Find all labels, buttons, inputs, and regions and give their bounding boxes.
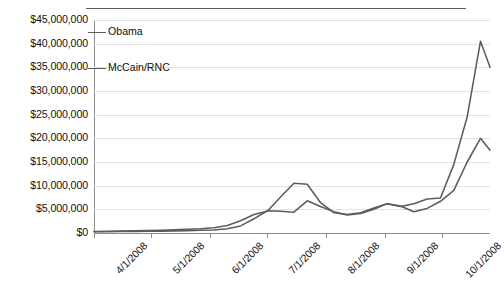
y-axis-tick-label: $35,000,000 bbox=[0, 60, 88, 72]
y-axis-tick-label: $10,000,000 bbox=[0, 179, 88, 191]
x-axis-tick-label: 5/1/2008 bbox=[171, 240, 207, 276]
y-axis-tick-label: $15,000,000 bbox=[0, 155, 88, 167]
x-axis-tick-label: 8/1/2008 bbox=[346, 240, 382, 276]
legend-swatch-obama bbox=[88, 32, 106, 33]
y-axis-tick-label: $45,000,000 bbox=[0, 13, 88, 25]
chart-container: $0$5,000,000$10,000,000$15,000,000$20,00… bbox=[0, 0, 504, 308]
y-axis-tick-label: $20,000,000 bbox=[0, 131, 88, 143]
legend-swatch-mccain bbox=[88, 68, 106, 69]
data-series-layer bbox=[94, 20, 490, 234]
y-axis-tick-label: $40,000,000 bbox=[0, 37, 88, 49]
x-axis-tick-label: 9/1/2008 bbox=[405, 240, 441, 276]
y-axis-tick-label: $25,000,000 bbox=[0, 108, 88, 120]
x-axis-tick-label: 10/1/2008 bbox=[464, 240, 504, 280]
y-axis-tick-label: $30,000,000 bbox=[0, 84, 88, 96]
x-axis-tick-label: 6/1/2008 bbox=[230, 240, 266, 276]
header-divider-rule bbox=[86, 8, 466, 9]
x-axis-tick-label: 7/1/2008 bbox=[287, 240, 323, 276]
x-axis-tick-label: 4/1/2008 bbox=[114, 240, 150, 276]
legend-label-obama: Obama bbox=[108, 25, 143, 37]
legend-label-mccain: McCain/RNC bbox=[108, 61, 170, 73]
y-axis-tick-label: $5,000,000 bbox=[0, 202, 88, 214]
y-axis-tick-label: $0 bbox=[0, 226, 88, 238]
